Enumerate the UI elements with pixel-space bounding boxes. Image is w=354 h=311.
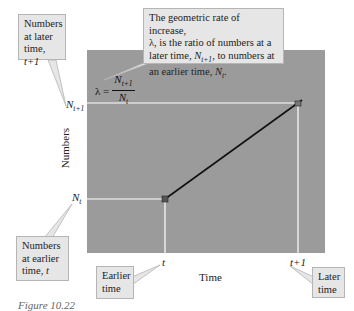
callout-text: at earlier	[22, 253, 63, 266]
callout-text: Later	[318, 271, 339, 284]
point-n-t1	[295, 101, 301, 106]
callout-rate-definition: The geometric rate of increase, λ, is th…	[143, 8, 284, 64]
callout-text: Earlier	[102, 270, 128, 283]
pointer-later-time	[290, 266, 314, 285]
pointer-earlier-numbers	[44, 204, 72, 238]
callout-text: Numbers	[24, 18, 60, 31]
x-tick-t1: t+1	[290, 256, 306, 268]
y-axis-label: Numbers	[59, 123, 71, 173]
y-tick-n-t1: Nt+1	[66, 98, 84, 113]
callout-text: time, t+1	[24, 43, 60, 68]
callout-text: time	[318, 284, 339, 297]
callout-text: later time, Nt+1, to numbers at	[149, 50, 278, 67]
callout-earlier-time: Earlier time	[96, 266, 134, 299]
callout-text: λ, is the ratio of numbers at a	[149, 37, 278, 50]
formula-denominator-sub: t	[126, 97, 128, 106]
y-tick-n-t: Nt	[72, 191, 81, 206]
callout-text: time, t	[22, 265, 63, 278]
callout-earlier-numbers: Numbers at earlier time, t	[16, 236, 69, 281]
formula-numerator-sub: t+1	[122, 79, 133, 88]
callout-text: at later	[24, 31, 60, 44]
formula-lhs: λ =	[95, 85, 109, 97]
formula-fraction: Nt+1 Nt	[112, 73, 134, 108]
callout-later-time: Later time	[312, 267, 345, 298]
point-n-t	[162, 196, 168, 202]
lambda-formula: λ = Nt+1 Nt	[95, 73, 135, 108]
callout-text: an earlier time, Nt.	[149, 66, 278, 83]
pointer-earlier-time	[132, 265, 160, 285]
x-tick-t: t	[162, 256, 165, 268]
figure-caption: Figure 10.22	[18, 299, 75, 311]
callout-later-numbers: Numbers at later time, t+1	[18, 14, 66, 60]
callout-text: time	[102, 283, 128, 296]
callout-text: Numbers	[22, 240, 63, 253]
formula-denominator: N	[119, 91, 126, 103]
formula-numerator: N	[114, 73, 121, 85]
x-axis-label: Time	[199, 271, 222, 283]
callout-text: The geometric rate of increase,	[149, 12, 278, 37]
growth-line	[165, 100, 302, 199]
